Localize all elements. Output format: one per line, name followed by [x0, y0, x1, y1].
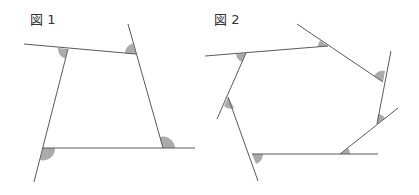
- figure-2-lines: [205, 24, 398, 181]
- figures-canvas: [0, 0, 419, 195]
- fig2-line-ab: [205, 46, 328, 56]
- fig2-line-bc: [297, 24, 383, 82]
- figure-1: [40, 44, 175, 161]
- fig2-line-de: [340, 108, 398, 154]
- fig2-line-fg: [228, 97, 258, 181]
- fig1-right-line: [128, 24, 163, 148]
- angle-arc-fig2-c: [374, 71, 385, 82]
- fig1-top-line: [24, 44, 136, 54]
- fig1-left-line: [34, 49, 68, 182]
- figure-2: [224, 41, 385, 165]
- angle-arc-fig2-f: [252, 154, 263, 164]
- fig2-line-ga: [217, 53, 246, 119]
- fig2-line-cd: [377, 51, 391, 124]
